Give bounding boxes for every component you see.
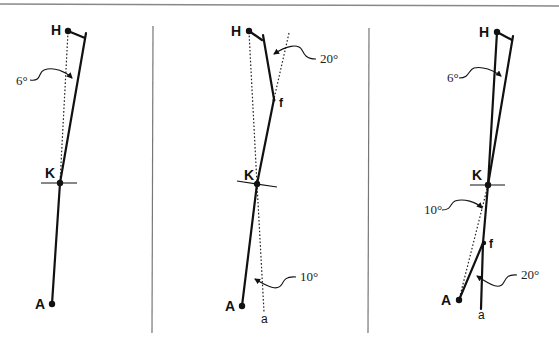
ankle-point	[49, 301, 55, 307]
hip-label: H	[51, 22, 61, 38]
knee-label: K	[472, 167, 482, 183]
panel-3: H K f A a 6° 10° 20°	[424, 24, 539, 322]
ankle-label: A	[35, 296, 45, 312]
panel-divider-2	[368, 28, 369, 333]
fracture-label: f	[489, 237, 494, 251]
hip-point	[494, 29, 500, 35]
shank-segment	[242, 184, 257, 306]
hip-point	[65, 28, 71, 34]
knee-label: K	[45, 165, 55, 181]
angle-label-6: 6°	[16, 73, 28, 88]
hip-label: H	[479, 24, 489, 40]
shank-segment	[52, 183, 60, 304]
angle-arrow-10	[255, 277, 296, 288]
hip-point	[246, 28, 252, 34]
panel-2: H f K A a 20° 10°	[225, 23, 338, 326]
angle-label-10: 10°	[300, 269, 318, 284]
axis-label: a	[261, 312, 268, 326]
proximal-femur-segment	[263, 35, 274, 99]
hip-knee-reference-line	[249, 32, 257, 184]
axis-a-line	[257, 184, 264, 312]
angle-arrow-20	[274, 46, 316, 59]
ankle-label: A	[225, 298, 235, 314]
axis-label: a	[478, 308, 485, 322]
knee-label: K	[244, 167, 254, 183]
proximal-tibia-segment	[483, 185, 488, 243]
knee-point	[254, 181, 260, 187]
fracture-point	[482, 241, 486, 245]
ankle-label: A	[441, 292, 451, 308]
panel-divider-1	[152, 26, 153, 333]
angle-arrow	[30, 69, 72, 81]
fracture-label: f	[279, 96, 284, 110]
angle-label-20: 20°	[320, 51, 338, 66]
distal-femur-segment	[257, 99, 274, 184]
femoral-axis-extension	[274, 33, 289, 99]
knee-alignment-diagram: H K A 6° H f K A a 20° 10°	[0, 0, 559, 345]
angle-label-20: 20°	[521, 267, 539, 282]
top-border	[0, 4, 559, 6]
ankle-point	[456, 297, 462, 303]
fracture-point	[273, 99, 276, 102]
angle-label-6: 6°	[447, 70, 459, 85]
ankle-point	[239, 303, 245, 309]
panel-1: H K A 6°	[16, 22, 86, 312]
hip-label: H	[231, 23, 241, 39]
angle-arrow-10	[442, 200, 482, 210]
knee-point	[485, 182, 491, 188]
axis-a-line	[481, 243, 483, 309]
angle-label-10: 10°	[424, 202, 442, 217]
knee-point	[57, 180, 63, 186]
